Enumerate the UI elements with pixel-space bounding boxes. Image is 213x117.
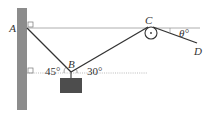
right-angle-marker-a <box>28 22 33 27</box>
angle-arc-30 <box>77 70 78 74</box>
wall <box>17 8 27 110</box>
label-c: C <box>145 14 153 26</box>
angle-label-30: 30° <box>87 65 102 77</box>
diagram-canvas: A B C D 45° 30° θ° <box>0 0 213 117</box>
label-b: B <box>68 58 75 70</box>
hanging-block <box>60 78 82 93</box>
label-d: D <box>193 45 202 57</box>
pulley-axle <box>150 32 152 34</box>
angle-arc-45 <box>64 67 66 73</box>
label-a: A <box>8 22 16 34</box>
angle-label-theta: θ° <box>179 27 189 39</box>
rope-bc <box>71 27 148 72</box>
angle-label-45: 45° <box>45 65 60 77</box>
right-angle-marker-lower <box>28 68 33 73</box>
rope-cd <box>153 27 197 43</box>
